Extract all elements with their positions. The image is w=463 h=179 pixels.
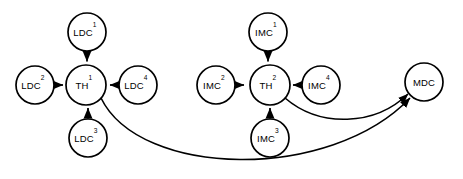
node-imc3[interactable]: IMC3 bbox=[251, 119, 289, 157]
node-th1[interactable]: TH1 bbox=[66, 65, 106, 105]
node-imc1[interactable]: IMC1 bbox=[249, 13, 287, 51]
edges-layer bbox=[55, 52, 411, 160]
node-ldc4[interactable]: LDC4 bbox=[119, 66, 157, 104]
diagram-canvas: LDC1LDC2TH1LDC4LDC3IMC1IMC2TH2IMC4IMC3MD… bbox=[0, 0, 463, 179]
node-label-mdc: MDC bbox=[413, 76, 435, 87]
node-ldc3[interactable]: LDC3 bbox=[69, 119, 107, 157]
directed-graph: LDC1LDC2TH1LDC4LDC3IMC1IMC2TH2IMC4IMC3MD… bbox=[0, 0, 463, 179]
nodes-layer: LDC1LDC2TH1LDC4LDC3IMC1IMC2TH2IMC4IMC3MD… bbox=[16, 13, 443, 157]
node-imc2[interactable]: IMC2 bbox=[197, 66, 235, 104]
node-th2[interactable]: TH2 bbox=[250, 65, 290, 105]
node-imc4[interactable]: IMC4 bbox=[302, 66, 340, 104]
node-ldc2[interactable]: LDC2 bbox=[16, 66, 54, 104]
node-ldc1[interactable]: LDC1 bbox=[68, 13, 106, 51]
node-mdc[interactable]: MDC bbox=[405, 63, 443, 101]
